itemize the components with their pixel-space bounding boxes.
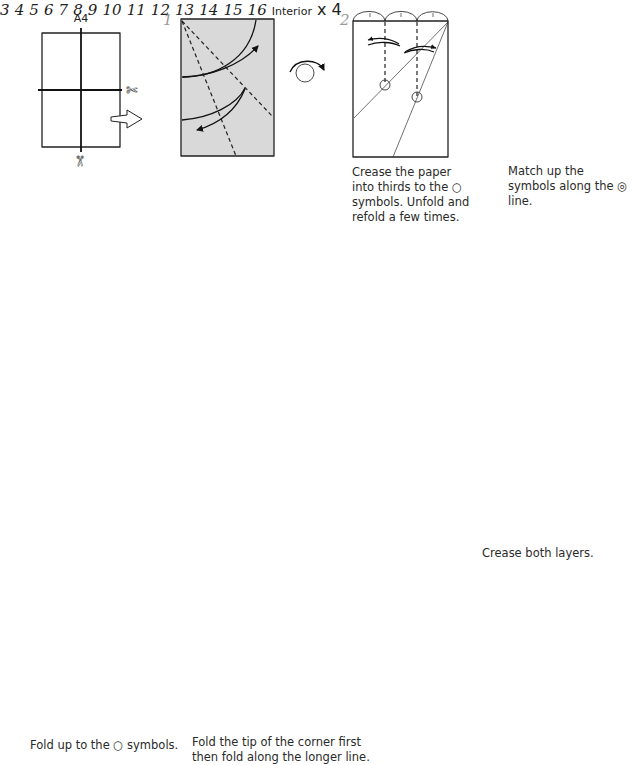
step-1: 1 (163, 11, 274, 156)
turn-over-icon (290, 61, 324, 82)
paper (353, 21, 448, 157)
step-2: 2 (339, 11, 448, 157)
caption-step-2: Crease the paper into thirds to the ○ sy… (352, 165, 470, 225)
step-number: 1 (163, 11, 173, 29)
caption-step-12: Crease both layers. (482, 546, 612, 561)
scissors-icon: ✄ (72, 155, 88, 167)
caption-step-3: Match up the symbols along the ◎ line. (508, 164, 633, 209)
caption-step-14: Fold the tip of the corner first then fo… (192, 735, 382, 765)
step-number: 2 (339, 11, 350, 29)
paper-size-label: A4 (74, 12, 89, 25)
caption-step-13: Fold up to the ○ symbols. (30, 738, 180, 753)
scissors-icon: ✄ (126, 82, 138, 98)
origami-diagram: A4 ✄ ✄ 1 2 (0, 0, 633, 765)
paper (181, 19, 274, 156)
step-a4-paper: A4 ✄ ✄ (38, 12, 142, 167)
